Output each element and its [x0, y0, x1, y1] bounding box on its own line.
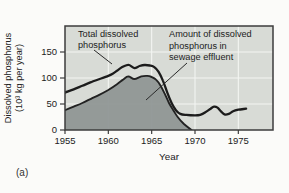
annotation-sewage-label: sewage effluent [169, 52, 234, 62]
x-tick-label: 1955 [54, 135, 75, 146]
y-tick-label: 50 [46, 98, 57, 109]
phosphorus-chart: 19551960196519701975050100150YearDissolv… [0, 0, 289, 193]
x-tick-label: 1960 [98, 135, 119, 146]
figure-caption: (a) [16, 167, 28, 178]
annotation-total-label: Total dissolved [78, 29, 138, 39]
y-tick-label: 100 [41, 72, 57, 83]
annotation-sewage-label: phosphorus in [169, 41, 227, 51]
y-tick-label: 0 [52, 124, 57, 135]
x-axis-title: Year [159, 151, 180, 162]
x-tick-label: 1975 [228, 135, 249, 146]
annotation-sewage-label: Amount of dissolved [169, 29, 252, 39]
y-tick-label: 150 [41, 46, 57, 57]
x-tick-label: 1970 [184, 135, 205, 146]
phosphorus-figure: 19551960196519701975050100150YearDissolv… [0, 0, 289, 193]
x-tick-label: 1965 [141, 135, 162, 146]
annotation-total-label: phosphorus [78, 40, 126, 50]
y-axis-title-line1: Dissolved phosphorus [3, 32, 13, 123]
y-axis-title-line2: (10³ kg per year) [14, 44, 24, 112]
